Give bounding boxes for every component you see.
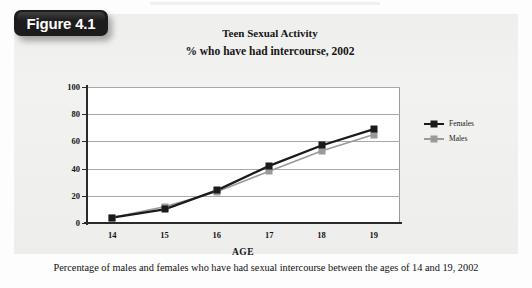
x-axis-tick-label: 18 (317, 230, 326, 240)
x-axis-tick-label: 14 (108, 230, 117, 240)
y-axis-tick-label: 60 (72, 136, 81, 146)
x-axis-tick-label: 19 (370, 230, 379, 240)
data-point-marker (370, 126, 377, 133)
y-axis-tick-label: 80 (72, 109, 81, 119)
legend-swatch-icon (424, 119, 444, 128)
figure-number-badge: Figure 4.1 (14, 10, 108, 36)
figure-page: Figure 4.1 Teen Sexual Activity % who ha… (0, 0, 532, 288)
x-axis-tick-label: 16 (213, 230, 222, 240)
chart-title: Teen Sexual Activity (120, 27, 420, 39)
legend-label: Females (449, 119, 474, 128)
legend-swatch-icon (424, 134, 444, 143)
y-axis-tick-label: 40 (72, 164, 81, 174)
x-axis-title: AGE (86, 247, 400, 257)
data-point-marker (266, 162, 273, 169)
data-point-marker (109, 214, 116, 221)
series-lines (86, 87, 400, 223)
legend-item-males: Males (424, 131, 520, 146)
scan-artifact (150, 2, 380, 5)
figure-number-label: Figure 4.1 (27, 15, 96, 32)
legend-label: Males (449, 134, 467, 143)
chart-subtitle: % who have had intercourse, 2002 (110, 45, 430, 57)
figure-caption: Percentage of males and females who have… (0, 262, 532, 273)
x-axis-tick-label: 15 (160, 230, 169, 240)
legend-item-females: Females (424, 116, 520, 131)
chart-plot: 020406080100 141516171819 AGE (86, 87, 400, 223)
data-point-marker (318, 142, 325, 149)
series-line-females (112, 129, 374, 217)
chart-legend: FemalesMales (424, 116, 520, 146)
y-axis-tick-label: 0 (76, 218, 80, 228)
y-axis-tick-label: 20 (72, 191, 81, 201)
x-axis-tick-label: 17 (265, 230, 274, 240)
data-point-marker (161, 206, 168, 213)
data-point-marker (213, 187, 220, 194)
y-axis-tick-label: 100 (67, 82, 80, 92)
series-line-males (112, 135, 374, 218)
